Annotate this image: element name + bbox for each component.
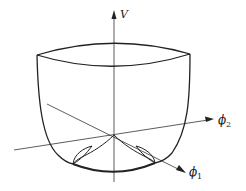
axis-label-phi2: ϕ 2 xyxy=(218,113,231,129)
svg-text:2: 2 xyxy=(226,120,231,129)
potential-surface-diagram: V ϕ 2 ϕ 1 xyxy=(0,0,246,191)
axis-label-phi1: ϕ 1 xyxy=(189,165,202,181)
svg-text:1: 1 xyxy=(197,172,202,181)
svg-text:ϕ: ϕ xyxy=(218,113,226,127)
axis-label-v: V xyxy=(120,8,129,21)
bowl-surface xyxy=(37,43,190,172)
svg-text:ϕ: ϕ xyxy=(189,165,197,179)
svg-text:V: V xyxy=(120,8,129,21)
v-axis xyxy=(112,10,117,182)
